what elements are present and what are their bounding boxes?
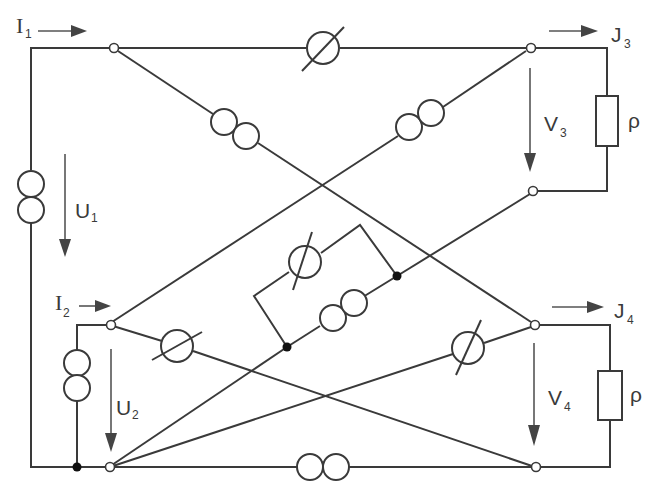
svg-text:I: I — [16, 13, 23, 38]
current-source-left-outer — [18, 171, 44, 223]
svg-text:1: 1 — [25, 27, 32, 41]
label-I1: I 1 — [16, 13, 32, 41]
terminal-port2-bottom — [106, 463, 115, 472]
label-V4: V 4 — [548, 386, 571, 414]
terminal-port3-top — [527, 44, 536, 53]
terminal-port1-top — [110, 44, 119, 53]
terminal-port2-top — [107, 321, 116, 330]
svg-text:I: I — [55, 290, 62, 315]
current-source-diagonal-1 — [211, 109, 259, 149]
junction-node-bottom-left — [73, 463, 82, 472]
resistor-bottom — [598, 371, 622, 420]
svg-text:1: 1 — [91, 211, 98, 225]
junction-node-center-upper — [393, 272, 402, 281]
label-J3: J 3 — [611, 23, 631, 51]
label-rho-bottom: ρ — [630, 383, 642, 406]
junction-node-center-lower — [283, 343, 292, 352]
current-source-bottom — [297, 454, 349, 480]
arrow-I2 — [79, 300, 111, 312]
svg-text:3: 3 — [560, 126, 567, 140]
current-source-center — [320, 290, 367, 331]
terminal-port4-bottom — [532, 463, 541, 472]
current-source-diagonal-2 — [396, 100, 444, 140]
svg-text:3: 3 — [624, 37, 631, 51]
slashed-element-lower-right — [452, 320, 484, 375]
arrow-V4 — [528, 343, 540, 446]
diagonal-tl-to-r4top — [118, 51, 531, 322]
slashed-element-top — [302, 27, 344, 71]
terminal-port4-top — [531, 321, 540, 330]
circuit-diagram: I 1 I 2 U 1 U 2 J 3 J 4 V 3 V 4 ρ ρ — [0, 0, 653, 486]
svg-text:U: U — [116, 396, 131, 419]
svg-text:4: 4 — [564, 400, 571, 414]
port1-loop-wires — [31, 48, 114, 467]
label-U1: U 1 — [75, 199, 98, 225]
arrow-U1 — [59, 154, 71, 257]
arrow-V3 — [524, 68, 536, 172]
svg-text:V: V — [548, 386, 562, 409]
svg-text:J: J — [611, 23, 622, 46]
svg-text:U: U — [75, 199, 90, 222]
arrow-J4 — [552, 301, 604, 313]
terminal-port3-bottom — [529, 187, 538, 196]
label-U2: U 2 — [116, 396, 139, 422]
arrow-J3 — [549, 25, 598, 37]
label-V3: V 3 — [544, 112, 567, 140]
diagonal-p2top-to-r3top — [112, 51, 526, 322]
svg-text:4: 4 — [627, 313, 634, 327]
slashed-element-center — [289, 232, 321, 290]
resistor-top — [596, 96, 618, 146]
svg-text:J: J — [614, 299, 625, 322]
slashed-element-lower-left — [152, 330, 202, 362]
label-rho-top: ρ — [628, 109, 640, 132]
label-I2: I 2 — [55, 290, 70, 320]
svg-text:V: V — [544, 112, 558, 135]
svg-text:2: 2 — [132, 408, 139, 422]
arrow-I1 — [38, 25, 87, 37]
label-J4: J 4 — [614, 299, 634, 327]
svg-text:2: 2 — [63, 306, 70, 320]
current-source-port2 — [64, 350, 90, 401]
